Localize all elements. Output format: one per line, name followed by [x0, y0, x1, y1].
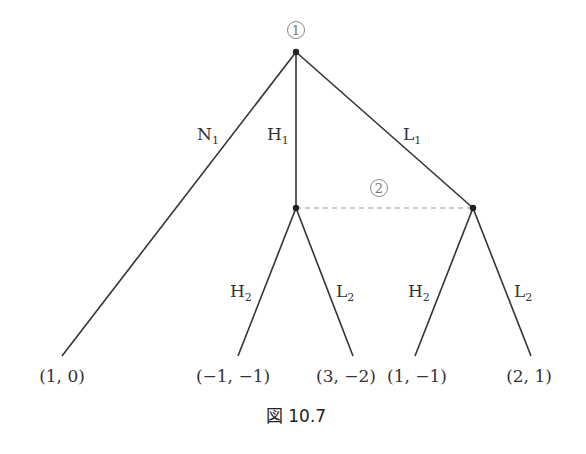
- label-l1: L1: [403, 124, 421, 147]
- player1-label: 1: [288, 22, 305, 39]
- edge-n1: [62, 52, 296, 356]
- player2-label: 2: [371, 180, 388, 197]
- label-h1: H1: [267, 124, 289, 147]
- label-l2-right: L2: [514, 281, 532, 304]
- edge-h2-left: [238, 208, 296, 356]
- svg-text:1: 1: [292, 23, 300, 38]
- figure-caption: 図 10.7: [266, 406, 326, 426]
- svg-text:2: 2: [375, 181, 383, 196]
- label-h2-right: H2: [408, 281, 430, 304]
- label-h2-left: H2: [230, 281, 252, 304]
- player2-node-right: [470, 205, 476, 211]
- payoff-h1-h2: (−1, −1): [196, 366, 270, 386]
- root-node: [293, 49, 299, 55]
- payoff-h1-l2: (3, −2): [316, 366, 376, 386]
- game-tree: 1 2 N1 H1 L1 H2 L2 H2 L2 (1, 0) (−1, −1)…: [0, 0, 586, 454]
- edge-l1: [296, 52, 473, 208]
- payoff-l1-l2: (2, 1): [506, 366, 552, 386]
- player2-node-left: [293, 205, 299, 211]
- payoff-n1: (1, 0): [39, 366, 85, 386]
- payoff-l1-h2: (1, −1): [387, 366, 447, 386]
- edge-h2-right: [415, 208, 473, 356]
- label-n1: N1: [197, 124, 219, 147]
- label-l2-left: L2: [336, 281, 354, 304]
